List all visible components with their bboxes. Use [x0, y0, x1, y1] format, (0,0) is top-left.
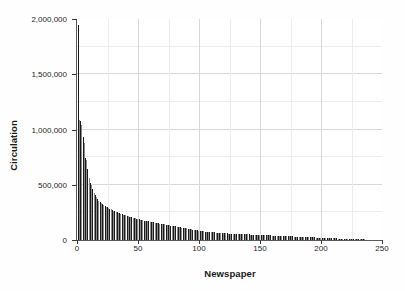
x-axis-line: [76, 240, 383, 241]
x-tick-label: 100: [192, 244, 205, 253]
gridline-vertical: [321, 19, 322, 240]
y-axis-title: Circulation: [5, 0, 23, 291]
x-tick-label: 150: [253, 244, 266, 253]
y-tick-mark: [72, 74, 77, 75]
gridline-vertical: [138, 19, 139, 240]
y-tick-mark: [72, 130, 77, 131]
chart-container: Circulation Newspaper 0500,0001,000,0001…: [0, 0, 405, 291]
y-tick-mark: [72, 185, 77, 186]
y-tick-label: 2,000,000: [0, 15, 72, 24]
gridline-vertical: [352, 19, 353, 240]
gridline-vertical: [169, 19, 170, 240]
gridline-vertical: [260, 19, 261, 240]
x-tick-label: 250: [375, 244, 388, 253]
x-tick-label: 200: [314, 244, 327, 253]
y-tick-label: 500,000: [0, 181, 72, 190]
y-tick-label: 0: [0, 236, 72, 245]
gridline-vertical: [291, 19, 292, 240]
x-tick-label: 50: [134, 244, 143, 253]
x-tick-label: 0: [75, 244, 79, 253]
gridline-vertical: [230, 19, 231, 240]
y-tick-label: 1,000,000: [0, 126, 72, 135]
y-tick-mark: [72, 19, 77, 20]
x-axis-title: Newspaper: [77, 268, 383, 279]
y-tick-label: 1,500,000: [0, 70, 72, 79]
gridline-vertical: [108, 19, 109, 240]
gridline-vertical: [199, 19, 200, 240]
plot-area: [77, 19, 382, 240]
